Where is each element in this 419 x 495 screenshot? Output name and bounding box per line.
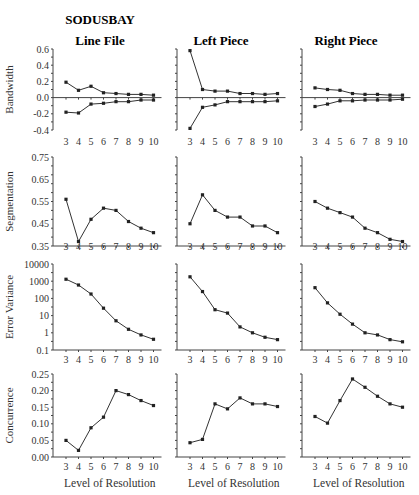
data-point	[376, 231, 379, 234]
y-axis-label: Error Variance	[3, 275, 15, 339]
x-tick-label: 9	[263, 136, 268, 147]
x-tick-label: 8	[250, 354, 255, 365]
x-tick-label: 7	[238, 241, 243, 252]
data-point	[338, 89, 341, 92]
data-point	[152, 98, 155, 101]
data-point	[127, 393, 130, 396]
data-point	[276, 92, 279, 95]
data-point	[388, 338, 391, 341]
data-point	[276, 231, 279, 234]
x-tick-label: 9	[263, 354, 268, 365]
x-tick-label: 8	[375, 354, 380, 365]
series-line-concurrence	[315, 379, 403, 423]
x-tick-label: 7	[363, 461, 368, 472]
data-point	[238, 396, 241, 399]
y-tick-label: 0.10	[32, 418, 50, 429]
data-point	[127, 100, 130, 103]
x-tick-label: 8	[126, 136, 131, 147]
data-point	[251, 224, 254, 227]
figure: SODUSBAY Line File Left Piece Right Piec…	[0, 0, 419, 495]
data-point	[363, 93, 366, 96]
x-tick-label: 5	[338, 136, 343, 147]
data-point	[313, 105, 316, 108]
x-tick-label: 7	[363, 241, 368, 252]
x-tick-label: 4	[200, 461, 205, 472]
column-title-right-piece: Right Piece	[314, 33, 377, 48]
x-tick-label: 10	[273, 241, 283, 252]
x-tick-label: 4	[200, 354, 205, 365]
data-point	[213, 103, 216, 106]
data-point	[388, 238, 391, 241]
y-tick-label: 100	[34, 293, 49, 304]
data-point	[376, 98, 379, 101]
data-point	[313, 286, 316, 289]
column-title-left-piece: Left Piece	[193, 33, 248, 48]
panel-segmentation-left-piece: 345678910	[175, 157, 286, 252]
x-tick-label: 6	[101, 461, 106, 472]
data-point	[77, 111, 80, 114]
x-tick-label: 5	[89, 461, 94, 472]
panel-bandwidth-left-piece: 345678910	[175, 49, 286, 147]
y-tick-label: 10000	[24, 259, 49, 270]
data-point	[139, 93, 142, 96]
panel-bandwidth-line-file: 3456789100.60.40.20.0-0.2-0.4Bandwidth	[3, 44, 162, 148]
x-tick-label: 5	[213, 354, 218, 365]
y-tick-label: 10	[39, 310, 49, 321]
data-point	[201, 290, 204, 293]
x-tick-label: 10	[398, 354, 408, 365]
x-tick-label: 4	[325, 461, 330, 472]
x-tick-label: 6	[225, 461, 230, 472]
x-tick-label: 8	[250, 461, 255, 472]
data-point	[213, 90, 216, 93]
x-tick-label: 9	[263, 461, 268, 472]
x-tick-label: 6	[225, 241, 230, 252]
data-point	[201, 438, 204, 441]
x-tick-label: 9	[139, 461, 144, 472]
data-point	[188, 222, 191, 225]
x-tick-label: 8	[250, 241, 255, 252]
data-point	[251, 100, 254, 103]
x-tick-label: 10	[149, 136, 159, 147]
data-point	[326, 102, 329, 105]
x-tick-label: 9	[388, 241, 393, 252]
data-point	[401, 240, 404, 243]
data-point	[238, 100, 241, 103]
data-point	[351, 99, 354, 102]
figure-title: SODUSBAY	[65, 12, 135, 27]
data-point	[152, 94, 155, 97]
data-point	[251, 92, 254, 95]
x-tick-label: 7	[114, 354, 119, 365]
x-tick-label: 3	[313, 461, 318, 472]
data-point	[376, 333, 379, 336]
panel-segmentation-line-file: 3456789100.750.650.550.450.35Segmentatio…	[3, 152, 162, 253]
x-tick-label: 5	[89, 136, 94, 147]
data-point	[139, 227, 142, 230]
x-tick-label: 6	[225, 136, 230, 147]
data-point	[363, 98, 366, 101]
x-tick-label: 3	[188, 241, 193, 252]
y-tick-label: 0.05	[32, 435, 50, 446]
data-point	[77, 283, 80, 286]
x-tick-label: 9	[388, 461, 393, 472]
x-tick-label: 3	[188, 461, 193, 472]
x-tick-label: 5	[89, 241, 94, 252]
data-point	[114, 100, 117, 103]
data-point	[102, 91, 105, 94]
panel-segmentation-right-piece: 345678910	[300, 157, 411, 252]
data-point	[89, 102, 92, 105]
x-tick-label: 6	[350, 241, 355, 252]
panel-error-variance-left-piece: 345678910	[175, 264, 286, 365]
x-tick-label: 3	[313, 136, 318, 147]
data-point	[213, 209, 216, 212]
y-tick-label: 0.0	[37, 92, 50, 103]
data-point	[351, 92, 354, 95]
data-point	[326, 88, 329, 91]
y-tick-label: 0.6	[37, 44, 50, 55]
x-tick-label: 8	[250, 136, 255, 147]
panel-concurrence-left-piece: 345678910Level of Resolution	[175, 374, 286, 489]
x-tick-label: 3	[64, 241, 69, 252]
x-tick-label: 10	[273, 136, 283, 147]
data-point	[139, 399, 142, 402]
y-tick-label: -0.2	[33, 108, 49, 119]
y-tick-label: 0.75	[32, 152, 50, 163]
